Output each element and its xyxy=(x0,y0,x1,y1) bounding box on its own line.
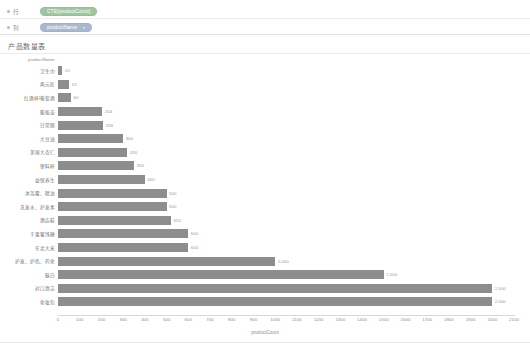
x-tick-label: 1300 xyxy=(335,317,345,322)
bar[interactable] xyxy=(58,189,167,198)
bar-row[interactable]: 红酒杯/葡萄酒60 xyxy=(0,91,530,105)
x-tick-label: 0 xyxy=(57,317,59,322)
shelf-rows[interactable]: 行 CTE(productCount) xyxy=(0,5,530,19)
bar-row[interactable]: 酒店鞋520 xyxy=(0,214,530,228)
bar-value-label: 208 xyxy=(106,123,113,128)
bar-row[interactable]: 美国大杏仁320 xyxy=(0,146,530,160)
bar[interactable] xyxy=(58,161,134,170)
bar-track: 300 xyxy=(58,132,530,146)
x-tick-label: 700 xyxy=(206,317,213,322)
bar-row-label: 美国大杏仁 xyxy=(0,149,58,155)
shelf-columns[interactable]: 列 productName ▾ xyxy=(0,21,530,35)
bar-rows: 卫生巾20两元区52红酒杯/葡萄酒60暖瓶壶204日常随208大豆油300美国大… xyxy=(0,64,530,309)
x-tick-label: 1600 xyxy=(401,317,411,322)
bar-row-label: 大豆油 xyxy=(0,136,58,142)
dot-icon xyxy=(7,26,10,29)
x-tick-label: 1400 xyxy=(357,317,367,322)
bar-row-label: 沐浴露、精油 xyxy=(0,190,58,196)
bar[interactable] xyxy=(58,229,188,238)
bar-value-label: 60 xyxy=(74,95,79,100)
shelf-columns-fields: productName ▾ xyxy=(40,23,92,32)
bar-value-label: 520 xyxy=(173,218,180,223)
bar-value-label: 350 xyxy=(137,163,144,168)
bar[interactable] xyxy=(58,66,62,75)
bar-track: 2,000 xyxy=(58,295,530,309)
bar[interactable] xyxy=(58,257,275,266)
bar-value-label: 600 xyxy=(191,245,198,250)
x-tick-label: 1800 xyxy=(444,317,454,322)
bar-row[interactable]: 对口清洁2,000 xyxy=(0,282,530,296)
x-tick-label: 1000 xyxy=(270,317,280,322)
bar-row-label: 两元区 xyxy=(0,81,58,87)
x-tick-label: 1700 xyxy=(422,317,432,322)
bar[interactable] xyxy=(58,148,127,157)
bar-row[interactable]: 益保养生400 xyxy=(0,173,530,187)
bar-row-label: 酒店鞋 xyxy=(0,217,58,223)
bar[interactable] xyxy=(58,121,103,130)
x-axis: 0100200300400500600700800900100011001200… xyxy=(58,315,530,325)
bar-value-label: 1,500 xyxy=(386,272,397,277)
bar[interactable] xyxy=(58,93,71,102)
field-pill-product-name-label: productName xyxy=(47,23,77,32)
bar[interactable] xyxy=(58,270,384,279)
bar-row-label: 卫生巾 xyxy=(0,68,58,74)
bar-track: 500 xyxy=(58,200,530,214)
x-tick-label: 1200 xyxy=(314,317,324,322)
bar-row[interactable]: 化妆包2,000 xyxy=(0,295,530,309)
bar[interactable] xyxy=(58,202,167,211)
bar-value-label: 500 xyxy=(169,191,176,196)
bar-row[interactable]: 两元区52 xyxy=(0,78,530,92)
bar-row[interactable]: 沐浴露、精油500 xyxy=(0,186,530,200)
x-axis-title: productCount xyxy=(0,330,530,335)
bar[interactable] xyxy=(58,284,492,293)
bar-track: 204 xyxy=(58,105,530,119)
bar-row-label: 护发、护色、药化 xyxy=(0,258,58,264)
bar-track: 400 xyxy=(58,173,530,187)
bar-track: 500 xyxy=(58,186,530,200)
bar-row[interactable]: 大豆油300 xyxy=(0,132,530,146)
bar-row-label: 红酒杯/葡萄酒 xyxy=(0,95,58,101)
bar[interactable] xyxy=(58,243,188,252)
bar-row[interactable]: 塑料杯350 xyxy=(0,159,530,173)
chevron-down-icon[interactable]: ▾ xyxy=(83,23,85,32)
bar[interactable] xyxy=(58,134,123,143)
x-tick-label: 800 xyxy=(228,317,235,322)
chart-title-bar: 产品数量表 xyxy=(0,37,530,54)
bar-value-label: 500 xyxy=(169,204,176,209)
bar-row[interactable]: 东北大米600 xyxy=(0,241,530,255)
x-tick-label: 400 xyxy=(141,317,148,322)
bar-value-label: 2,000 xyxy=(495,299,506,304)
bar-track: 1,500 xyxy=(58,268,530,282)
field-pill-product-name[interactable]: productName ▾ xyxy=(40,23,92,32)
x-tick-label: 1500 xyxy=(379,317,389,322)
bar[interactable] xyxy=(58,216,171,225)
bar-row[interactable]: 脑白1,500 xyxy=(0,268,530,282)
bar-row[interactable]: 日常随208 xyxy=(0,118,530,132)
shelf-columns-label: 列 xyxy=(0,24,40,32)
bar[interactable] xyxy=(58,297,492,306)
bar[interactable] xyxy=(58,80,69,89)
bar-row[interactable]: 护发、护色、药化1,000 xyxy=(0,254,530,268)
x-tick-label: 2100 xyxy=(509,317,519,322)
bar-track: 600 xyxy=(58,241,530,255)
bar-row[interactable]: 干果蜜饯糖600 xyxy=(0,227,530,241)
x-tick-label: 2000 xyxy=(487,317,497,322)
field-pill-product-count[interactable]: CTE(productCount) xyxy=(40,7,97,16)
bar-value-label: 320 xyxy=(130,150,137,155)
bar-row[interactable]: 暖瓶壶204 xyxy=(0,105,530,119)
bar-row-label: 化妆包 xyxy=(0,299,58,305)
bar-row-label: 干果蜜饯糖 xyxy=(0,231,58,237)
bar-row-label: 塑料杯 xyxy=(0,163,58,169)
bar[interactable] xyxy=(58,107,102,116)
x-tick-label: 900 xyxy=(250,317,257,322)
x-tick-label: 200 xyxy=(98,317,105,322)
bar-value-label: 2,000 xyxy=(495,286,506,291)
bar-track: 1,000 xyxy=(58,254,530,268)
bar-row-label: 洗发水、护发素 xyxy=(0,204,58,210)
bar-row[interactable]: 卫生巾20 xyxy=(0,64,530,78)
bar-track: 52 xyxy=(58,78,530,92)
bar-value-label: 300 xyxy=(126,136,133,141)
bar-row[interactable]: 洗发水、护发素500 xyxy=(0,200,530,214)
bar[interactable] xyxy=(58,175,145,184)
bar-value-label: 204 xyxy=(105,109,112,114)
